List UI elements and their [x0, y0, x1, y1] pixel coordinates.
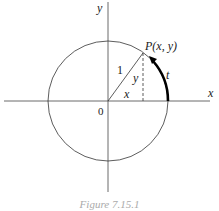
- radius-label: 1: [117, 63, 123, 77]
- origin-label: 0: [98, 105, 104, 117]
- unit-circle-diagram: y x 0 P(x, y) 1 y x t: [0, 0, 219, 211]
- vertical-leg-label: y: [132, 71, 139, 85]
- figure-caption: Figure 7.15.1: [0, 198, 219, 210]
- arc-label: t: [166, 68, 170, 82]
- horizontal-leg-label: x: [123, 87, 130, 101]
- point-label: P(x, y): [144, 39, 177, 53]
- x-axis-label: x: [207, 86, 214, 100]
- y-axis-label: y: [96, 1, 103, 15]
